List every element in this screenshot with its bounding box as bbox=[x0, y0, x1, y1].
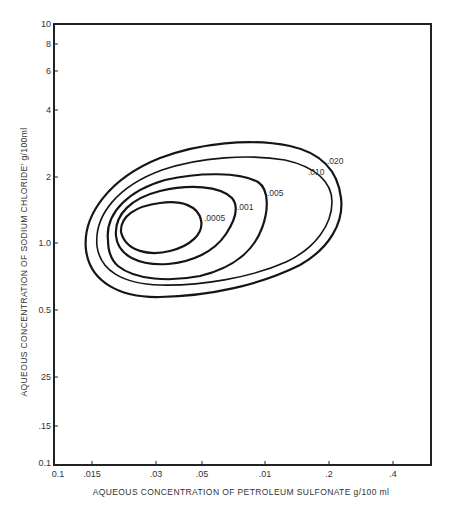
contour-label-0005: .0005 bbox=[204, 213, 226, 223]
x-axis-title: AQUEOUS CONCENTRATION OF PETROLEUM SULFO… bbox=[93, 487, 390, 497]
x-tick-label: .015 bbox=[83, 469, 101, 479]
contour-label-001: .001 bbox=[237, 202, 254, 212]
x-tick-label: .4 bbox=[389, 469, 397, 479]
y-tick-label: 4 bbox=[46, 105, 51, 115]
contour-0005 bbox=[121, 202, 201, 253]
y-tick-label: 10 bbox=[41, 19, 51, 29]
plot-frame bbox=[54, 24, 431, 465]
contour-label-005: .005 bbox=[267, 188, 284, 198]
y-tick-label: 1.0 bbox=[38, 238, 51, 248]
contour-chart: 10 8 6 4 2 1.0 0.5 25 .15 0.1 0.1 .015 .… bbox=[0, 0, 450, 512]
y-tick-label: 25 bbox=[41, 372, 51, 382]
y-tick-label: 8 bbox=[46, 39, 51, 49]
y-tick-label: 2 bbox=[46, 172, 51, 182]
x-axis: 0.1 .015 .03 .05 .01 .2 .4 bbox=[52, 461, 397, 479]
x-tick-label: .03 bbox=[150, 469, 163, 479]
contour-001 bbox=[116, 187, 236, 264]
x-tick-label: .2 bbox=[325, 469, 333, 479]
y-axis: 10 8 6 4 2 1.0 0.5 25 .15 0.1 bbox=[38, 19, 58, 468]
x-tick-label: .01 bbox=[259, 469, 272, 479]
contour-005 bbox=[108, 174, 267, 279]
y-axis-title: AQUEOUS CONCENTRATION OF SODIUM CHLORIDE… bbox=[19, 127, 29, 396]
x-tick-label: .05 bbox=[196, 469, 209, 479]
y-tick-label: .15 bbox=[38, 421, 51, 431]
y-tick-label: 6 bbox=[46, 66, 51, 76]
y-tick-label: 0.5 bbox=[38, 305, 51, 315]
x-tick-label: 0.1 bbox=[52, 469, 65, 479]
y-tick-label: 0.1 bbox=[38, 458, 51, 468]
contour-label-020: .020 bbox=[327, 156, 344, 166]
contour-labels: .0005 .001 .005 .010 .020 bbox=[204, 156, 344, 223]
contour-label-010: .010 bbox=[308, 167, 325, 177]
